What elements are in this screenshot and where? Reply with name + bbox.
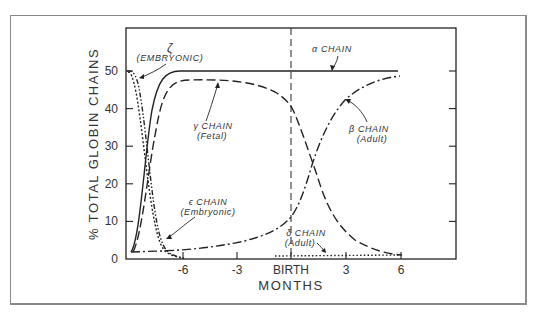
- y-tick-10: 10: [105, 214, 119, 228]
- svg-text:(EMBRYONIC): (EMBRYONIC): [137, 53, 204, 63]
- svg-text:γ CHAIN: γ CHAIN: [193, 121, 232, 131]
- y-tick-20: 20: [105, 177, 119, 191]
- alpha-label: α CHAIN: [312, 44, 352, 71]
- alpha-chain-curve: [131, 71, 398, 252]
- epsilon-chain-curve: [128, 72, 183, 258]
- gamma-chain-curve: [133, 80, 401, 255]
- delta-chain-curve: [275, 255, 402, 256]
- gamma-label: γ CHAIN (Fetal): [193, 82, 232, 141]
- x-tick-6: 6: [398, 263, 405, 277]
- svg-text:(Adult): (Adult): [285, 238, 316, 248]
- y-tick-labels: 50 40 30 20 10 0: [105, 64, 119, 266]
- svg-text:β CHAIN: β CHAIN: [348, 124, 389, 134]
- x-tick-3: 3: [343, 263, 350, 277]
- y-tick-30: 30: [105, 139, 119, 153]
- beta-arrow-icon: [347, 100, 367, 122]
- x-tick-labels: -6 -3 BIRTH 3 6: [178, 263, 405, 277]
- x-axis-label: MONTHS: [258, 278, 323, 293]
- svg-text:(Adult): (Adult): [357, 134, 388, 144]
- svg-text:δ CHAIN: δ CHAIN: [286, 228, 326, 238]
- y-tick-0: 0: [111, 252, 118, 266]
- svg-text:ϵ CHAIN: ϵ CHAIN: [189, 197, 228, 207]
- epsilon-label: ϵ CHAIN (Embryonic): [166, 197, 236, 239]
- y-tick-50: 50: [105, 64, 119, 78]
- epsilon-arrow-icon: [168, 217, 195, 238]
- svg-text:(Embryonic): (Embryonic): [180, 207, 235, 217]
- beta-chain-curve: [131, 76, 400, 252]
- globin-chart: 50 40 30 20 10 0 -6 -3 BIRTH 3 6 MONTHS …: [0, 0, 537, 315]
- x-tick-minus6: -6: [178, 263, 189, 277]
- svg-text:α CHAIN: α CHAIN: [312, 44, 352, 54]
- x-tick-minus3: -3: [232, 263, 243, 277]
- beta-label: β CHAIN (Adult): [345, 99, 389, 144]
- svg-text:(Fetal): (Fetal): [197, 131, 227, 141]
- gamma-arrow-icon: [206, 84, 218, 121]
- y-tick-40: 40: [105, 102, 119, 116]
- x-tick-birth: BIRTH: [273, 263, 309, 277]
- y-axis-label: % TOTAL GLOBIN CHAINS: [86, 48, 101, 240]
